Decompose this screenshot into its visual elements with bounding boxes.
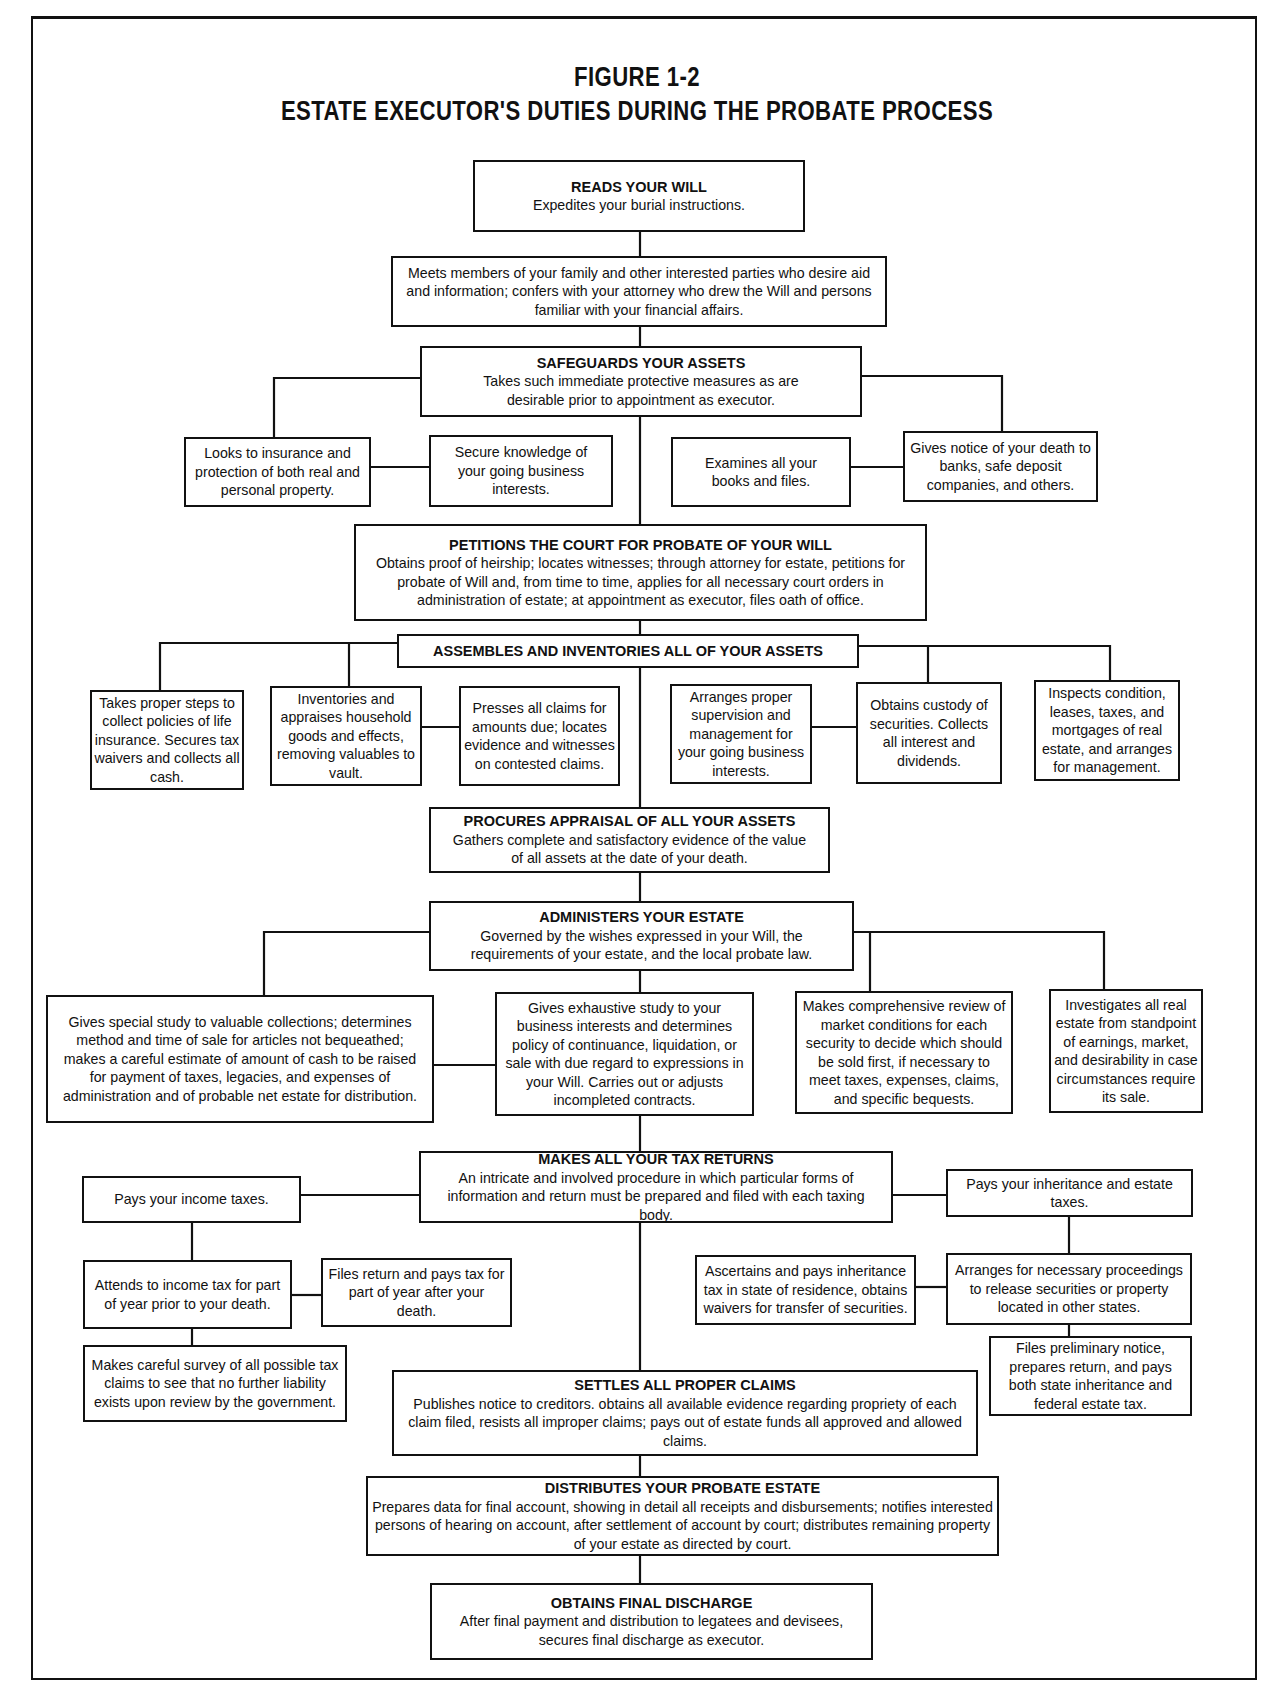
node-real-estate-investigate: Investigates all real estate from standp… [1049, 989, 1203, 1113]
node-heading: ASSEMBLES AND INVENTORIES ALL OF YOUR AS… [403, 642, 853, 661]
node-presses-claims: Presses all claims for amounts due; loca… [459, 686, 620, 786]
node-income-prior: Attends to income tax for part of year p… [83, 1260, 292, 1329]
node-heading: PETITIONS THE COURT FOR PROBATE OF YOUR … [362, 536, 919, 555]
node-income-after: Files return and pays tax for part of ye… [321, 1258, 512, 1327]
node-insurance: Looks to insurance and protection of bot… [184, 437, 371, 507]
node-text: Meets members of your family and other i… [403, 264, 875, 320]
node-text: Obtains custody of securities. Collects … [862, 696, 996, 770]
node-text: Looks to insurance and protection of bot… [190, 444, 365, 500]
node-market-review: Makes comprehensive review of market con… [795, 991, 1013, 1114]
node-heading: SAFEGUARDS YOUR ASSETS [462, 354, 820, 373]
node-household: Inventories and appraises household good… [270, 686, 422, 786]
node-business-study: Gives exhaustive study to your business … [495, 992, 754, 1116]
node-text: Makes comprehensive review of market con… [801, 997, 1007, 1108]
node-text: Files return and pays tax for part of ye… [327, 1265, 506, 1321]
node-heading: DISTRIBUTES YOUR PROBATE ESTATE [372, 1479, 993, 1498]
figure-label: FIGURE 1-2 [115, 62, 1160, 93]
node-text: Arranges for necessary proceedings to re… [952, 1261, 1186, 1317]
node-text: Prepares data for final account, showing… [372, 1498, 993, 1554]
node-preliminary-notice: Files preliminary notice, prepares retur… [989, 1336, 1192, 1416]
node-text: Takes such immediate protective measures… [462, 372, 820, 409]
node-income-taxes: Pays your income taxes. [82, 1176, 301, 1223]
node-text: Pays your income taxes. [88, 1190, 295, 1209]
node-inheritance-state: Ascertains and pays inheritance tax in s… [695, 1255, 916, 1325]
node-assembles: ASSEMBLES AND INVENTORIES ALL OF YOUR AS… [397, 634, 859, 668]
node-heading: MAKES ALL YOUR TAX RETURNS [429, 1150, 883, 1169]
node-text: Ascertains and pays inheritance tax in s… [701, 1262, 910, 1318]
node-final-discharge: OBTAINS FINAL DISCHARGE After final paym… [430, 1583, 873, 1660]
node-collections: Gives special study to valuable collecti… [46, 995, 434, 1123]
node-text: Examines all your books and files. [693, 454, 829, 491]
node-securities-custody: Obtains custody of securities. Collects … [856, 682, 1002, 784]
node-real-estate-inspect: Inspects condition, leases, taxes, and m… [1034, 680, 1180, 781]
node-heading: OBTAINS FINAL DISCHARGE [442, 1594, 861, 1613]
node-settles-claims: SETTLES ALL PROPER CLAIMS Publishes noti… [392, 1370, 978, 1456]
node-supervision: Arranges proper supervision and manageme… [670, 684, 812, 784]
node-tax-survey: Makes careful survey of all possible tax… [83, 1345, 347, 1422]
node-text: Arranges proper supervision and manageme… [674, 688, 808, 781]
node-text: An intricate and involved procedure in w… [429, 1169, 883, 1225]
node-text: Files preliminary notice, prepares retur… [995, 1339, 1186, 1413]
node-text: Obtains proof of heirship; locates witne… [362, 554, 919, 610]
node-gives-notice: Gives notice of your death to banks, saf… [903, 431, 1098, 502]
node-text: Presses all claims for amounts due; loca… [463, 699, 616, 773]
node-safeguards: SAFEGUARDS YOUR ASSETS Takes such immedi… [420, 346, 862, 417]
node-text: Pays your inheritance and estate taxes. [958, 1175, 1181, 1212]
node-business-knowledge: Secure knowledge of your going business … [429, 435, 613, 507]
node-text: Governed by the wishes expressed in your… [447, 927, 836, 964]
node-examines-books: Examines all your books and files. [671, 437, 851, 507]
node-meets-family: Meets members of your family and other i… [391, 256, 887, 327]
node-heading: SETTLES ALL PROPER CLAIMS [404, 1376, 966, 1395]
node-text: Publishes notice to creditors. obtains a… [404, 1395, 966, 1451]
node-text: Secure knowledge of your going business … [445, 443, 597, 499]
node-text: Inventories and appraises household good… [274, 690, 418, 783]
node-petitions: PETITIONS THE COURT FOR PROBATE OF YOUR … [354, 524, 927, 621]
node-text: Makes careful survey of all possible tax… [89, 1356, 341, 1412]
node-other-states: Arranges for necessary proceedings to re… [946, 1253, 1192, 1325]
node-text: Attends to income tax for part of year p… [91, 1276, 284, 1313]
node-life-insurance: Takes proper steps to collect policies o… [90, 690, 244, 790]
node-text: Expedites your burial instructions. [479, 196, 799, 215]
node-text: Gives notice of your death to banks, saf… [909, 439, 1092, 495]
figure-title: ESTATE EXECUTOR'S DUTIES DURING THE PROB… [115, 96, 1160, 127]
node-text: Gathers complete and satisfactory eviden… [445, 831, 814, 868]
node-text: After final payment and distribution to … [442, 1612, 861, 1649]
node-tax-returns: MAKES ALL YOUR TAX RETURNS An intricate … [419, 1151, 893, 1223]
node-heading: PROCURES APPRAISAL OF ALL YOUR ASSETS [445, 812, 814, 831]
node-distributes: DISTRIBUTES YOUR PROBATE ESTATE Prepares… [366, 1476, 999, 1556]
node-heading: ADMINISTERS YOUR ESTATE [447, 908, 836, 927]
node-inheritance-taxes: Pays your inheritance and estate taxes. [946, 1169, 1193, 1217]
node-text: Investigates all real estate from standp… [1053, 996, 1199, 1107]
node-text: Takes proper steps to collect policies o… [94, 694, 240, 787]
node-text: Gives exhaustive study to your business … [501, 999, 748, 1110]
node-administers: ADMINISTERS YOUR ESTATE Governed by the … [429, 901, 854, 971]
node-appraisal: PROCURES APPRAISAL OF ALL YOUR ASSETS Ga… [429, 807, 830, 873]
node-reads-will: READS YOUR WILL Expedites your burial in… [473, 160, 805, 232]
node-text: Inspects condition, leases, taxes, and m… [1038, 684, 1176, 777]
node-text: Gives special study to valuable collecti… [54, 1013, 426, 1106]
node-heading: READS YOUR WILL [479, 178, 799, 197]
